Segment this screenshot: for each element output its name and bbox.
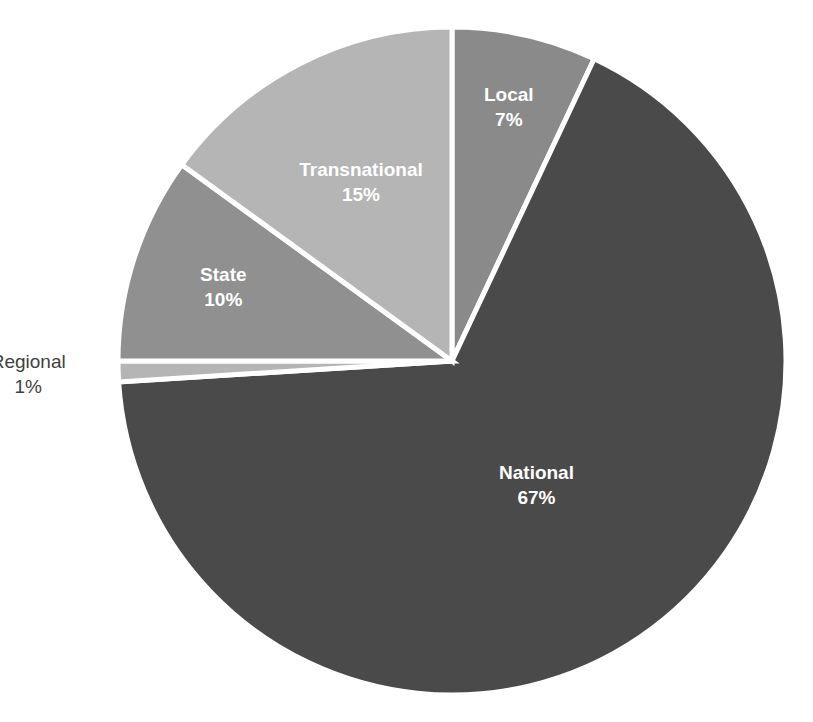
pie-value-state: 10% <box>204 289 242 310</box>
pie-value-national: 67% <box>517 487 555 508</box>
pie-slices-group <box>118 27 786 695</box>
pie-label-local: Local <box>484 84 534 105</box>
pie-label-regional: Regional <box>0 351 66 372</box>
pie-value-local: 7% <box>495 109 523 130</box>
pie-chart: Local7%National67%Regional1%State10%Tran… <box>0 0 813 722</box>
pie-label-state: State <box>200 264 246 285</box>
pie-chart-canvas: Local7%National67%Regional1%State10%Tran… <box>0 0 813 722</box>
pie-label-national: National <box>499 462 574 483</box>
pie-value-regional: 1% <box>14 376 42 397</box>
pie-label-transnational: Transnational <box>299 159 423 180</box>
pie-value-transnational: 15% <box>342 184 380 205</box>
